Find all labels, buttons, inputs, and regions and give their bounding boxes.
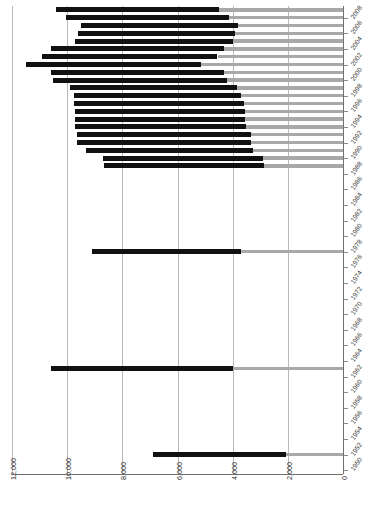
bar-segment-light bbox=[218, 55, 344, 58]
y-tick-mark bbox=[344, 455, 348, 456]
bar-segment-dark bbox=[81, 23, 238, 28]
gridline-2000 bbox=[288, 6, 289, 474]
bar-row bbox=[0, 109, 376, 114]
x-tick-label: 8,000 bbox=[119, 462, 128, 480]
bar-segment-dark bbox=[86, 148, 253, 153]
y-tick-label: 1984 bbox=[349, 191, 363, 207]
bar-row bbox=[0, 31, 376, 36]
bar-segment-dark bbox=[77, 140, 251, 145]
bar-segment-light bbox=[263, 156, 343, 159]
x-tick-label: 12,000 bbox=[9, 458, 18, 480]
y-tick-label: 1974 bbox=[349, 269, 363, 285]
y-tick-mark bbox=[344, 236, 348, 237]
bar-segment-light bbox=[235, 32, 343, 35]
bar-row bbox=[0, 101, 376, 106]
y-tick-mark bbox=[344, 18, 348, 19]
y-tick-mark bbox=[344, 96, 348, 97]
bar-row bbox=[0, 132, 376, 137]
bar-row bbox=[0, 46, 376, 51]
y-tick-mark bbox=[344, 158, 348, 159]
bar-segment-dark bbox=[56, 7, 219, 12]
bar-segment-dark bbox=[103, 156, 263, 161]
bar-segment-light bbox=[233, 367, 343, 370]
bar-row bbox=[0, 163, 376, 168]
bar-segment-dark bbox=[75, 39, 232, 44]
y-tick-mark bbox=[344, 439, 348, 440]
gridline-8000 bbox=[122, 6, 123, 474]
bar-row bbox=[0, 23, 376, 28]
bar-segment-dark bbox=[104, 163, 264, 168]
bar-segment-light bbox=[229, 16, 343, 19]
y-tick-mark bbox=[344, 205, 348, 206]
gridline-10000 bbox=[67, 6, 68, 474]
y-tick-mark bbox=[344, 392, 348, 393]
bar-segment-dark bbox=[78, 31, 235, 36]
bar-row bbox=[0, 7, 376, 12]
bar-segment-light bbox=[227, 78, 343, 81]
y-tick-mark bbox=[344, 111, 348, 112]
y-tick-label: 1970 bbox=[349, 300, 363, 316]
bar-row bbox=[0, 140, 376, 145]
y-tick-mark bbox=[344, 345, 348, 346]
y-tick-mark bbox=[344, 65, 348, 66]
y-tick-label: 1964 bbox=[349, 347, 363, 363]
y-tick-mark bbox=[344, 174, 348, 175]
bar-row bbox=[0, 39, 376, 44]
bar-row bbox=[0, 156, 376, 161]
bar-segment-light bbox=[286, 453, 343, 456]
bar-segment-light bbox=[224, 71, 343, 74]
y-tick-label: 1956 bbox=[349, 409, 363, 425]
bar-row bbox=[0, 249, 376, 254]
bar-segment-light bbox=[245, 117, 343, 120]
bar-row bbox=[0, 62, 376, 67]
y-tick-label: 1976 bbox=[349, 253, 363, 269]
gridline-6000 bbox=[178, 6, 179, 474]
y-tick-label: 1950 bbox=[349, 456, 363, 472]
y-tick-mark bbox=[344, 267, 348, 268]
bar-segment-light bbox=[245, 110, 343, 113]
bar-segment-dark bbox=[42, 54, 217, 59]
bar-segment-light bbox=[251, 133, 343, 136]
bar-segment-light bbox=[251, 141, 343, 144]
y-tick-mark bbox=[344, 127, 348, 128]
bar-segment-dark bbox=[26, 62, 201, 67]
bar-row bbox=[0, 117, 376, 122]
bar-segment-light bbox=[241, 94, 343, 97]
bar-segment-light bbox=[241, 250, 343, 253]
y-tick-mark bbox=[344, 361, 348, 362]
bar-segment-dark bbox=[74, 93, 241, 98]
y-tick-mark bbox=[344, 33, 348, 34]
y-tick-label: 1982 bbox=[349, 206, 363, 222]
bar-segment-dark bbox=[70, 85, 237, 90]
bar-segment-dark bbox=[153, 452, 287, 457]
plot-area: 2008200620042002200019981996199419921990… bbox=[0, 0, 376, 526]
bar-segment-dark bbox=[51, 46, 225, 51]
x-axis-line bbox=[12, 474, 343, 475]
bar-chart: 2008200620042002200019981996199419921990… bbox=[0, 0, 376, 526]
x-tick-label: 6,000 bbox=[175, 462, 184, 480]
bar-row bbox=[0, 54, 376, 59]
gridline-12000 bbox=[12, 6, 13, 474]
y-tick-label: 1980 bbox=[349, 222, 363, 238]
y-tick-label: 1986 bbox=[349, 175, 363, 191]
bar-segment-dark bbox=[51, 70, 225, 75]
bar-segment-light bbox=[238, 24, 343, 27]
y-tick-mark bbox=[344, 330, 348, 331]
bar-segment-dark bbox=[77, 132, 251, 137]
y-tick-mark bbox=[344, 189, 348, 190]
bar-row bbox=[0, 70, 376, 75]
bar-segment-light bbox=[264, 164, 343, 167]
bar-segment-dark bbox=[74, 101, 244, 106]
y-tick-label: 1966 bbox=[349, 331, 363, 347]
bar-row bbox=[0, 85, 376, 90]
gridline-4000 bbox=[233, 6, 234, 474]
bar-segment-light bbox=[219, 8, 343, 11]
bar-segment-light bbox=[201, 63, 343, 66]
bar-segment-light bbox=[233, 39, 343, 42]
bar-segment-light bbox=[237, 86, 343, 89]
y-tick-mark bbox=[344, 221, 348, 222]
bar-segment-light bbox=[244, 102, 343, 105]
y-axis-line bbox=[343, 6, 344, 474]
bar-segment-dark bbox=[92, 249, 241, 254]
bar-segment-light bbox=[224, 47, 343, 50]
